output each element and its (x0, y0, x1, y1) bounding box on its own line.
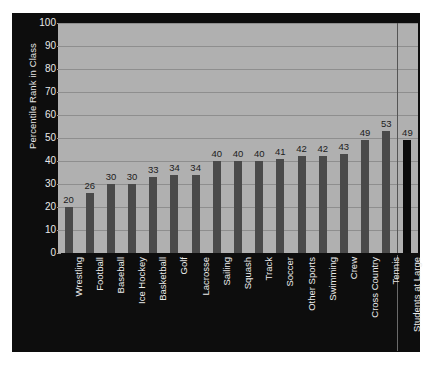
x-axis-category-label: Track (263, 257, 274, 280)
x-axis-category-label: Baseball (115, 257, 126, 293)
y-axis-tick-label: 0 (26, 248, 56, 258)
bar-value-label: 30 (121, 172, 143, 182)
x-axis-category-label: Basketball (157, 257, 168, 301)
x-axis-category-labels: WrestlingFootballBaseballIce HockeyBaske… (58, 255, 418, 351)
y-axis-tick-label: 60 (26, 110, 56, 120)
chart-figure: Percentile Rank in Class 010203040506070… (12, 13, 420, 352)
x-axis-category-label: Wrestling (73, 257, 84, 296)
bar-value-label: 42 (312, 144, 334, 154)
bar-value-label: 26 (79, 181, 101, 191)
bar (340, 154, 348, 253)
x-axis-category-label: Other Sports (306, 257, 317, 311)
bar (298, 156, 306, 253)
bar-value-label: 43 (333, 142, 355, 152)
bar (128, 184, 136, 253)
bar (403, 140, 411, 253)
y-axis-tick-label: 100 (26, 18, 56, 28)
y-axis-tick-label: 40 (26, 156, 56, 166)
x-axis-category-label: Swimming (327, 257, 338, 301)
bar-value-label: 34 (163, 163, 185, 173)
bar-value-label: 40 (248, 149, 270, 159)
x-axis-category-label: Soccer (284, 257, 295, 287)
gridline (58, 23, 418, 24)
bar (65, 207, 73, 253)
x-axis-category-label: Cross Country (369, 257, 380, 318)
bar-value-label: 41 (269, 147, 291, 157)
bar (192, 175, 200, 253)
bar-value-label: 20 (58, 195, 80, 205)
bar (319, 156, 327, 253)
y-axis-tick-label: 20 (26, 202, 56, 212)
bar-value-label: 40 (206, 149, 228, 159)
x-axis-category-label: Tennis (390, 257, 401, 284)
x-axis-category-label: Sailing (221, 257, 232, 286)
bar-value-label: 40 (227, 149, 249, 159)
gridline (58, 69, 418, 70)
bar-value-label: 42 (291, 144, 313, 154)
bar (255, 161, 263, 253)
y-axis-tick-label: 50 (26, 133, 56, 143)
y-axis-tick-label: 70 (26, 87, 56, 97)
y-axis-tick-label: 80 (26, 64, 56, 74)
bar (382, 131, 390, 253)
bar-value-label: 33 (142, 165, 164, 175)
bar (149, 177, 157, 253)
y-axis-tick-labels: 0102030405060708090100 (26, 13, 56, 352)
bar (107, 184, 115, 253)
y-axis-tick-label: 10 (26, 225, 56, 235)
bar-value-label: 49 (354, 128, 376, 138)
bar (361, 140, 369, 253)
y-axis-tick-label: 90 (26, 41, 56, 51)
bar-value-label: 34 (185, 163, 207, 173)
x-axis-category-label: Golf (178, 257, 189, 274)
x-axis-category-label: Squash (242, 257, 253, 289)
bar (170, 175, 178, 253)
x-axis-category-label: Crew (348, 257, 359, 279)
x-axis-category-label: Students at Large (411, 257, 422, 332)
gridline (58, 92, 418, 93)
bar (276, 159, 284, 253)
gridline (58, 115, 418, 116)
gridline (58, 46, 418, 47)
x-axis-category-label: Ice Hockey (136, 257, 147, 304)
plot-area: 2026303033343440404041424243495349 (58, 23, 418, 253)
bar-value-label: 49 (396, 128, 418, 138)
bar-value-label: 30 (100, 172, 122, 182)
x-axis-category-label: Football (94, 257, 105, 291)
bar (86, 193, 94, 253)
bar-value-label: 53 (375, 119, 397, 129)
x-axis-category-label: Lacrosse (200, 257, 211, 296)
bar (234, 161, 242, 253)
y-axis-tick-label: 30 (26, 179, 56, 189)
bar (213, 161, 221, 253)
